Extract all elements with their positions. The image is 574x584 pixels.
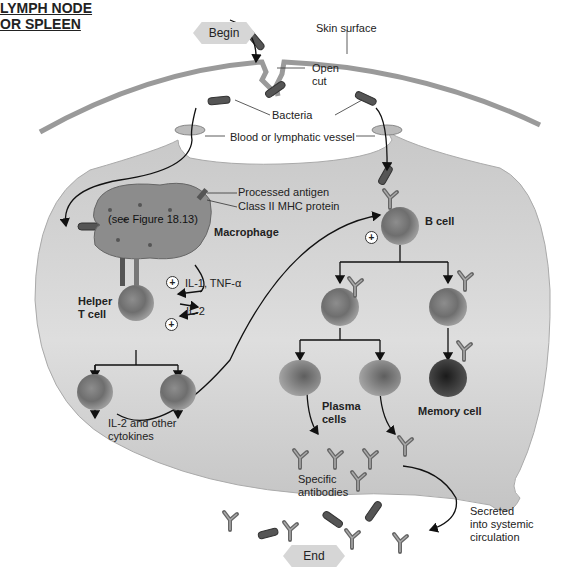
bacteria-label: Bacteria bbox=[272, 109, 312, 122]
end-label: End bbox=[303, 549, 324, 563]
helper-t-label-1: Helper bbox=[78, 295, 112, 308]
memory-cell-label: Memory cell bbox=[418, 405, 482, 418]
open-cut-label-1: Open bbox=[312, 62, 339, 75]
skin-surface-label: Skin surface bbox=[316, 22, 377, 35]
end-node: End bbox=[283, 545, 345, 567]
plasma-cell-1 bbox=[279, 360, 321, 396]
secreted-label-2: into systemic bbox=[470, 518, 534, 531]
t-cell-clone-2 bbox=[160, 374, 196, 410]
specific-antibodies-label-1: Specific bbox=[298, 473, 337, 486]
b-cell bbox=[381, 207, 419, 245]
open-cut-label-2: cut bbox=[312, 75, 327, 88]
il2-other-label-2: cytokines bbox=[108, 430, 154, 443]
specific-antibodies-label-2: antibodies bbox=[298, 486, 348, 499]
class-ii-mhc-label: Class II MHC protein bbox=[238, 200, 339, 213]
processed-antigen-label: Processed antigen bbox=[238, 186, 329, 199]
helper-t-cell bbox=[118, 285, 154, 321]
il2-label: IL-2 bbox=[186, 305, 205, 318]
il2-other-label-1: IL-2 and other bbox=[108, 417, 177, 430]
begin-node: Begin bbox=[193, 22, 255, 44]
il1-tnf-label: IL-1, TNF-α bbox=[185, 277, 241, 290]
macrophage-label: Macrophage bbox=[214, 226, 279, 239]
stimulate-icon-3: + bbox=[365, 231, 378, 244]
b-cell-label: B cell bbox=[425, 215, 454, 228]
stimulate-icon-1: + bbox=[166, 276, 179, 289]
plasma-cells-label-1: Plasma bbox=[322, 400, 361, 413]
vessel-left-top bbox=[175, 125, 205, 135]
plasma-cell-2 bbox=[359, 360, 401, 396]
plasma-cells-label-2: cells bbox=[322, 413, 346, 426]
b-cell-clone-2 bbox=[429, 288, 467, 326]
diagram-canvas bbox=[0, 0, 574, 584]
stimulate-icon-2: + bbox=[165, 318, 178, 331]
secreted-label-3: circulation bbox=[470, 531, 520, 544]
secreted-label-1: Secreted bbox=[470, 505, 514, 518]
begin-label: Begin bbox=[209, 26, 240, 40]
helper-t-label-2: T cell bbox=[78, 308, 106, 321]
memory-cell bbox=[429, 359, 467, 397]
t-cell-clone-1 bbox=[77, 374, 113, 410]
vessel-label: Blood or lymphatic vessel bbox=[230, 131, 355, 144]
see-figure-label: (see Figure 18.13) bbox=[108, 213, 198, 226]
vessel-right-top bbox=[372, 125, 402, 135]
